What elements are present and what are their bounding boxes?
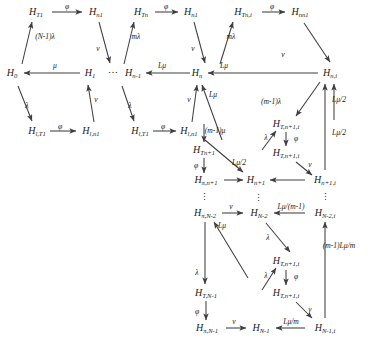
vertical-ellipsis-left: ⋮ [200,192,209,202]
diagram-edges [0,0,371,345]
node-H_n-i: Hn,i [323,68,337,78]
edge-label-lambda: λ [195,269,198,277]
edge-label-nu: ν [96,45,99,53]
edge-label-phi: φ [58,123,62,131]
node-H_n1-a: Hn1 [89,7,103,17]
edge-label-nu: ν [94,96,97,104]
edge-label-m-minus-1-lambda: (m-1)λ [261,98,281,106]
edge-label-L-mu-over-2: Lμ/2 [232,159,246,167]
vertical-ellipsis-mid: ⋮ [254,193,263,203]
node-H_l-T1-a: Hl,T1 [28,126,46,136]
node-H_Tn-i: HTn,i [234,7,252,17]
node-H_l-n1-b: Hl,n1 [180,126,197,136]
edge-label-lambda: λ [266,234,269,242]
node-H_N-minus-1-i: HN-1,i [315,323,336,333]
node-H_pi-N-minus-1: Hπ,N-1 [196,323,218,333]
edge-label-nu: ν [187,96,190,104]
node-H_l-T1-b: Hl,T1 [131,126,149,136]
edge-group [18,12,334,328]
edge-label-L-mu: Lμ [218,222,226,230]
edge-label-N-minus-1-lambda: (N-1)λ [35,33,55,41]
node-H_pi-N-minus-2: Hπ,N-2 [194,208,216,218]
edge-label-phi: φ [65,3,69,11]
edge-label-m-lambda: mλ [132,33,141,41]
node-H_n-minus-1: Hn-1 [125,68,141,78]
node-H_0: H0 [7,68,18,78]
edge-label-phi: φ [294,273,298,281]
edge-label-lambda: λ [25,102,28,110]
edge-label-L-mu-over-m: Lμ/m [283,318,299,326]
vertical-ellipsis-right: ⋮ [321,192,330,202]
node-H_T1: HT1 [29,7,43,17]
edge-label-L-mu: Lμ [220,62,228,70]
edge-label-L-mu: Lμ [209,91,217,99]
edge-label-phi: φ [194,162,198,170]
state-transition-diagram: HT1 Hn1 HTn Hn1 HTn,i Hnn1 H0 H1 Hn-1 Hn… [0,0,371,345]
node-H_T-n1-i-b: HT,n+1,i [273,148,300,158]
edge-label-m-minus-1-L-mu-over-m: (m-1)Lμ/m [323,242,356,250]
node-H_N-minus-1: HN-1 [252,323,269,333]
edge-label-nu: ν [229,203,232,211]
node-H_l-n1-a: Hl,n1 [82,126,99,136]
edge-label-lambda: λ [128,102,131,110]
edge-label-phi: φ [195,308,199,316]
edge-label-nu: ν [281,51,284,59]
edge-label-phi: φ [294,135,298,143]
node-H_n1-b: Hn1 [184,7,198,17]
node-H_N-minus-2: HN-2 [250,208,267,218]
edge-label-nu: ν [308,161,311,169]
node-H_n: Hn [192,68,203,78]
node-H_pi-n-plus-1: Hπ,n+1 [194,175,217,185]
node-H_T-n1-i-d: HT,n+1,i [273,288,300,298]
edge-label-phi: φ [270,3,274,11]
edge-label-phi: φ [161,123,165,131]
horizontal-ellipsis: ⋯ [108,67,119,78]
edge-label-L-mu-over-2: Lμ/2 [332,96,346,104]
node-H_T-n1-i-a: HT,n+1,i [273,119,300,129]
edge-label-nu: ν [232,318,235,326]
node-H_Tn-plus-1: HTn+1 [193,145,215,155]
node-H_T-N-minus-1: HT,N-1 [195,288,217,298]
edge-label-L-mu: Lμ [158,62,166,70]
edge-label-phi: φ [164,3,168,11]
edge-label-mu: μ [53,62,57,70]
node-H_1: H1 [85,68,96,78]
edge-label-m-lambda: mλ [227,33,236,41]
edge-label-nu: ν [191,45,194,53]
edge-label-L-mu-over-m-minus-1: Lμ/(m-1) [277,203,304,211]
edge-label-nu: ν [308,306,311,314]
node-H_T-n1-i-c: HT,n+1,i [273,256,300,266]
node-H_nn1: Hnn1 [291,7,308,17]
edge-label-lambda: λ [264,134,267,142]
edge-label-lambda: λ [264,272,267,280]
node-H_N-minus-2-i: HN-2,i [315,208,336,218]
edge-label-m-minus-1-mu: (m-1)μ [205,127,226,135]
edge-label-L-mu-over-2: Lμ/2 [332,129,346,137]
node-H_Tn: HTn [134,7,148,17]
node-H_n-plus-1: Hn+1 [247,175,265,185]
node-H_n-plus-1-i: Hn+1,i [314,175,336,185]
